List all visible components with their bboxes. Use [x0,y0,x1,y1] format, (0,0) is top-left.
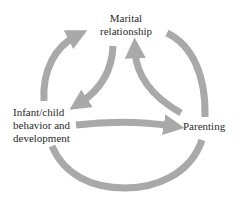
arrow-infant-to-marital [44,36,76,101]
arrow-parenting-to-infant [52,140,202,188]
arrow-marital-to-infant [80,46,113,103]
node-label-line: development [13,132,70,145]
node-label-line: Parenting [183,120,225,133]
arrow-infant-to-parenting [76,122,172,126]
arrow-parenting-to-marital [135,50,181,113]
node-marital-relationship: Marital relationship [95,12,157,38]
node-infant-child-behavior: Infant/child behavior and development [13,106,70,145]
node-label-line: Marital [95,12,157,25]
node-label-line: relationship [95,25,157,38]
node-parenting: Parenting [183,120,225,133]
node-label-line: behavior and [13,119,70,132]
node-label-line: Infant/child [13,106,70,119]
